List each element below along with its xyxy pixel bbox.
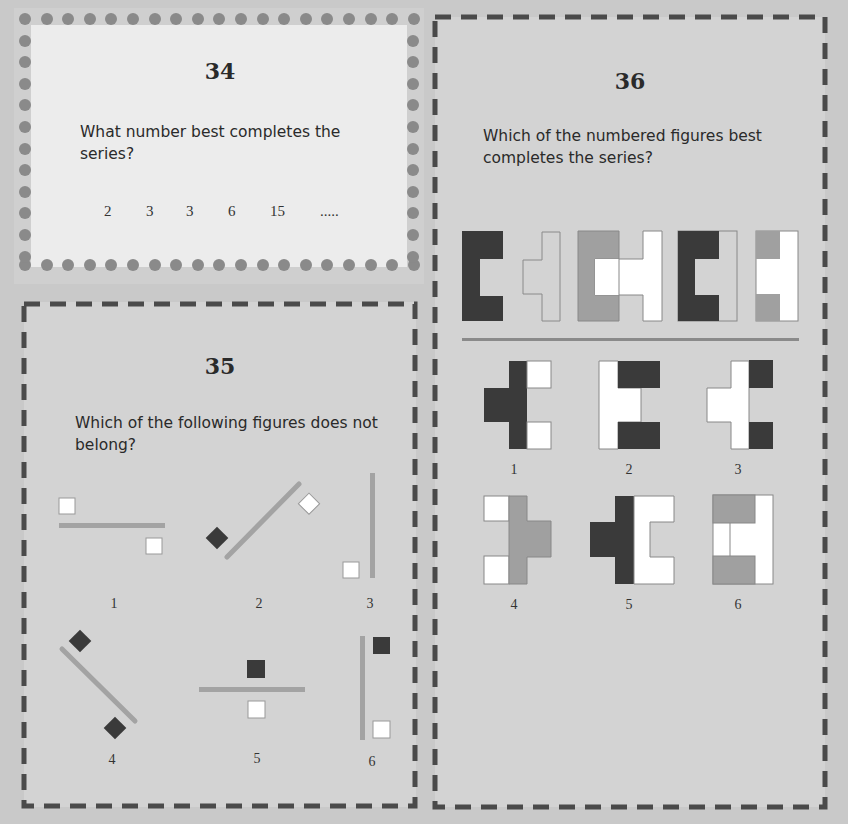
q36-option-4-label[interactable]: 4 [504,597,524,613]
q35-figure-5-label: 5 [247,751,267,767]
q35-figure-6-label: 6 [362,754,382,770]
q36-option-4 [484,496,551,584]
q35-figure-6 [360,636,390,740]
q36-series-figure-2 [523,232,560,321]
q36-series-figure-5 [756,231,798,321]
q36-option-1 [484,361,551,449]
q35-figure-1-label: 1 [104,596,124,612]
question-35-dashed-border [24,304,415,806]
q35-figure-5 [199,660,305,718]
q35-figure-3-label: 3 [360,596,380,612]
q35-figure-2-label: 2 [249,596,269,612]
q36-option-6-label[interactable]: 6 [728,597,748,613]
q36-separator-line [462,338,799,341]
q36-option-3-label[interactable]: 3 [728,462,748,478]
q36-option-2-label[interactable]: 2 [619,462,639,478]
q36-option-3 [707,360,773,449]
q36-option-2 [599,361,660,449]
q35-figure-4-label: 4 [102,752,122,768]
q36-option-5-label[interactable]: 5 [619,597,639,613]
q36-option-5 [590,496,674,584]
q35-figure-3 [343,473,375,578]
q36-option-1-label[interactable]: 1 [504,462,524,478]
q35-figure-1 [59,498,165,554]
q36-series-figure-3 [578,231,662,321]
q36-series-figure-4 [678,231,737,321]
q36-option-6 [713,495,773,584]
q36-series-figure-1 [462,231,503,321]
q35-figure-4 [62,630,135,740]
q35-figure-2 [206,484,320,557]
figures-layer [0,0,848,824]
